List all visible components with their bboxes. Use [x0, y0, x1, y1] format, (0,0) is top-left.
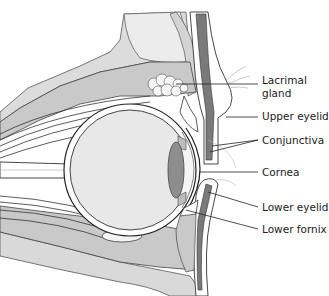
label-lacrimal-gland: Lacrimal gland [262, 74, 322, 100]
label-conjunctiva: Conjunctiva [262, 134, 324, 147]
lower-eyelashes [216, 180, 236, 186]
lens [168, 142, 184, 198]
label-lower-fornix: Lower fornix [262, 223, 327, 236]
upper-eyelashes [226, 66, 250, 88]
label-lower-eyelid: Lower eyelid [262, 201, 328, 214]
upper-fornix [180, 96, 198, 132]
label-upper-eyelid: Upper eyelid [262, 110, 329, 123]
label-cornea: Cornea [262, 166, 299, 179]
